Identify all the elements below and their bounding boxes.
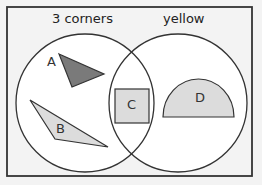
set-label-yellow: yellow [163,11,205,26]
venn-diagram: 3 corners yellow A B C D [0,0,262,185]
venn-canvas [0,0,262,185]
set-label-3-corners: 3 corners [52,11,113,26]
label-b: B [56,121,65,136]
label-a: A [47,54,56,69]
label-c: C [127,97,136,112]
label-d: D [195,90,205,105]
